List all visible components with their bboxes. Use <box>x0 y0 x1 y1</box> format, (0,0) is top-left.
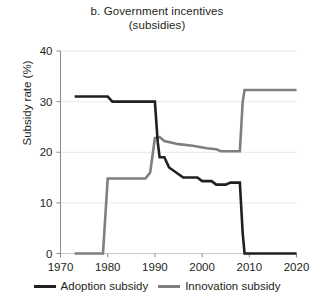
y-tick-label: 40 <box>40 45 53 57</box>
series-line-adoption-subsidy <box>75 97 297 254</box>
legend-swatch-innovation-subsidy <box>158 285 180 288</box>
y-tick-label: 0 <box>46 248 52 260</box>
legend-label-innovation-subsidy: Innovation subsidy <box>185 280 280 292</box>
series-line-innovation-subsidy <box>75 90 297 254</box>
plot-area: 010203040197019801990200020102020 <box>0 0 314 301</box>
x-tick-label: 2020 <box>284 261 310 273</box>
y-tick-label: 20 <box>40 146 53 158</box>
x-tick-label: 2000 <box>189 261 215 273</box>
x-tick-label: 1970 <box>48 261 74 273</box>
y-tick-label: 10 <box>40 197 53 209</box>
chart-container: b. Government incentives (subsidies) Sub… <box>0 0 314 301</box>
x-tick-label: 1990 <box>142 261 168 273</box>
chart-legend: Adoption subsidy Innovation subsidy <box>0 280 314 292</box>
legend-item-innovation-subsidy: Innovation subsidy <box>158 280 280 292</box>
legend-item-adoption-subsidy: Adoption subsidy <box>34 280 149 292</box>
x-tick-label: 2010 <box>237 261 263 273</box>
legend-label-adoption-subsidy: Adoption subsidy <box>61 280 149 292</box>
legend-swatch-adoption-subsidy <box>34 285 56 288</box>
x-tick-label: 1980 <box>95 261 121 273</box>
y-tick-label: 30 <box>40 96 53 108</box>
